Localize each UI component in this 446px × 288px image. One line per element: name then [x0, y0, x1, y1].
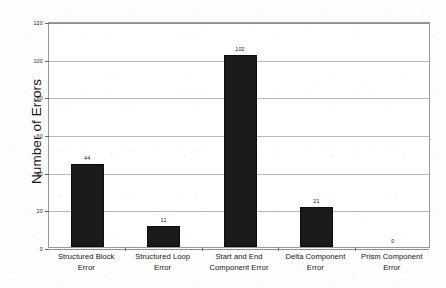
x-tick-mark-3 — [278, 247, 279, 251]
x-tick-mark-4 — [355, 247, 356, 251]
bar-value-label-1: 11 — [161, 217, 167, 223]
x-category-label-line: Structured Block — [48, 252, 124, 263]
bar-2 — [224, 55, 257, 247]
x-axis-category-labels: Structured BlockErrorStructured LoopErro… — [48, 252, 430, 286]
y-tick-mark-0 — [45, 249, 49, 250]
x-category-label-4: Prism ComponentError — [354, 252, 430, 273]
x-category-label-0: Structured BlockError — [48, 252, 124, 273]
x-tick-mark-1 — [125, 247, 126, 251]
x-category-label-line: Structured Loop — [124, 252, 200, 263]
bar-1 — [147, 226, 180, 247]
y-tick-mark-40 — [45, 174, 49, 175]
y-tick-mark-100 — [45, 61, 49, 62]
x-category-label-line: Prism Component — [354, 252, 430, 263]
bar-value-label-4: 0 — [391, 238, 394, 244]
y-axis-title: Number of Errors — [29, 42, 44, 222]
x-category-label-line: Delta Component — [277, 252, 353, 263]
bar-chart-figure: Number of Errors 020406080100120 4411102… — [0, 0, 446, 288]
y-tick-label-100: 100 — [33, 58, 43, 64]
gridline-0 — [49, 249, 429, 250]
bar-0 — [71, 164, 104, 247]
gridline-120 — [49, 23, 429, 24]
x-category-label-line: Error — [48, 263, 124, 274]
y-tick-label-80: 80 — [37, 95, 43, 101]
x-tick-mark-2 — [202, 247, 203, 251]
y-tick-label-120: 120 — [33, 20, 43, 26]
y-tick-mark-120 — [45, 23, 49, 24]
y-tick-label-20: 20 — [37, 208, 43, 214]
x-category-label-line: Error — [354, 263, 430, 274]
bar-value-label-2: 102 — [235, 46, 245, 52]
y-tick-mark-80 — [45, 98, 49, 99]
y-tick-mark-20 — [45, 211, 49, 212]
y-tick-mark-60 — [45, 136, 49, 137]
x-category-label-1: Structured LoopError — [124, 252, 200, 273]
bar-value-label-0: 44 — [84, 155, 90, 161]
x-category-label-line: Error — [124, 263, 200, 274]
bar-value-label-3: 21 — [313, 198, 319, 204]
x-category-label-line: Component Error — [201, 263, 277, 274]
y-tick-label-0: 0 — [40, 246, 43, 252]
plot-area: 020406080100120 4411102210 — [48, 22, 430, 248]
x-category-label-2: Start and EndComponent Error — [201, 252, 277, 273]
y-tick-label-60: 60 — [37, 133, 43, 139]
x-category-label-line: Error — [277, 263, 353, 274]
y-tick-label-40: 40 — [37, 171, 43, 177]
x-category-label-line: Start and End — [201, 252, 277, 263]
bar-3 — [300, 207, 333, 247]
x-category-label-3: Delta ComponentError — [277, 252, 353, 273]
